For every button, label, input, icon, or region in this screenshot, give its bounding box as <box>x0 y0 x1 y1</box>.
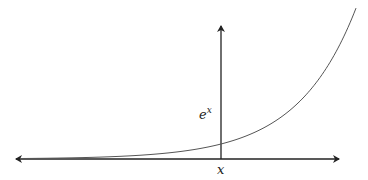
y-axis-label-exponent: x <box>207 105 212 115</box>
exponential-diagram <box>0 0 368 180</box>
y-axis-label: ex <box>199 106 212 121</box>
exponential-curve <box>20 8 356 158</box>
x-axis-label: x <box>217 163 224 176</box>
y-axis-label-base: e <box>199 107 207 122</box>
